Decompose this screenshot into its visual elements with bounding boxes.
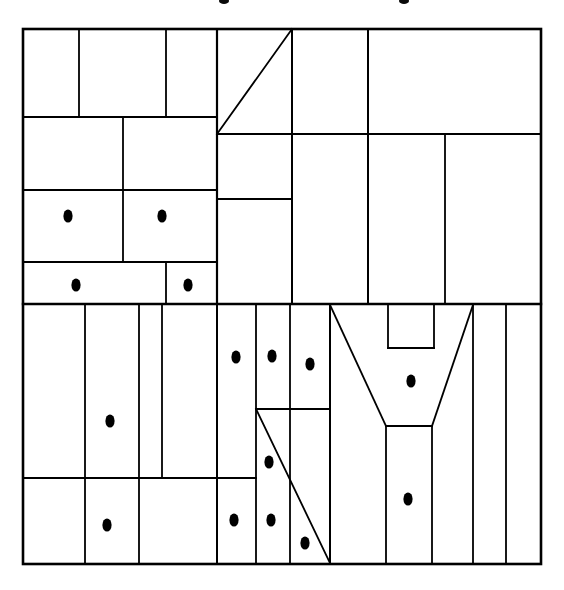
dot-mid-bottom-a: [231, 350, 240, 363]
dot-bottom-row-a: [229, 513, 238, 526]
dot-bottom-row-b: [266, 513, 275, 526]
dot-upper-strip-left: [71, 278, 80, 291]
dot-funnel-upper: [406, 374, 415, 387]
dot-lower-left-bottom-room: [102, 518, 111, 531]
floor-plan-canvas: [0, 0, 564, 590]
dot-upper-left-room: [63, 209, 72, 222]
dot-mid-bottom-b: [267, 349, 276, 362]
dot-upper-center-room: [157, 209, 166, 222]
dot-mid-bottom-c: [305, 357, 314, 370]
floor-plan-figure: [0, 0, 564, 590]
dot-bottom-row-c: [300, 536, 309, 549]
dot-lower-left-tall-room: [105, 414, 114, 427]
dot-upper-strip-right: [183, 278, 192, 291]
dot-mid-triangle-room: [264, 455, 273, 468]
dot-funnel-stem: [403, 492, 412, 505]
